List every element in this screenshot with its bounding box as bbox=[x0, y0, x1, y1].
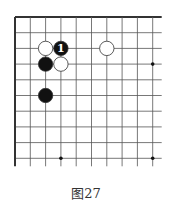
star-point-icon bbox=[59, 157, 63, 161]
black-stone bbox=[38, 88, 52, 102]
black-stone bbox=[38, 57, 52, 71]
white-stone-icon bbox=[100, 41, 114, 55]
grid-lines bbox=[15, 17, 162, 166]
go-board: 1 bbox=[0, 0, 172, 180]
figure-caption: 图27 bbox=[0, 183, 172, 202]
move-number-label: 1 bbox=[57, 42, 65, 55]
white-stone-icon bbox=[38, 41, 52, 55]
white-stone-icon bbox=[54, 57, 68, 71]
black-stone-icon bbox=[38, 88, 52, 102]
white-stone bbox=[54, 57, 68, 71]
black-stone-icon bbox=[38, 57, 52, 71]
white-stone bbox=[100, 41, 114, 55]
white-stone bbox=[38, 41, 52, 55]
black-stone: 1 bbox=[54, 41, 68, 55]
star-point-icon bbox=[151, 62, 155, 66]
star-point-icon bbox=[151, 157, 155, 161]
